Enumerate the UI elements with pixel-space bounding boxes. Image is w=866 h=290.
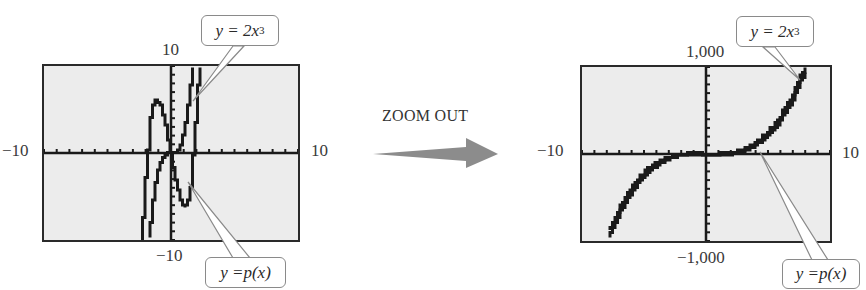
- right-ymax-label: 1,000: [686, 42, 724, 62]
- right-xmin-label: −10: [537, 141, 564, 161]
- right-callout-p: y = p(x): [782, 259, 860, 289]
- callout-text: y =: [796, 264, 819, 284]
- right-xmax-label: 10: [842, 143, 859, 163]
- callout-text: y = 2x: [750, 22, 794, 42]
- right-callout-cubic: y = 2x3: [736, 16, 814, 47]
- right-ymin-label: −1,000: [677, 248, 725, 268]
- callout-fn: p(x): [819, 264, 846, 284]
- callout-exponent: 3: [794, 25, 800, 37]
